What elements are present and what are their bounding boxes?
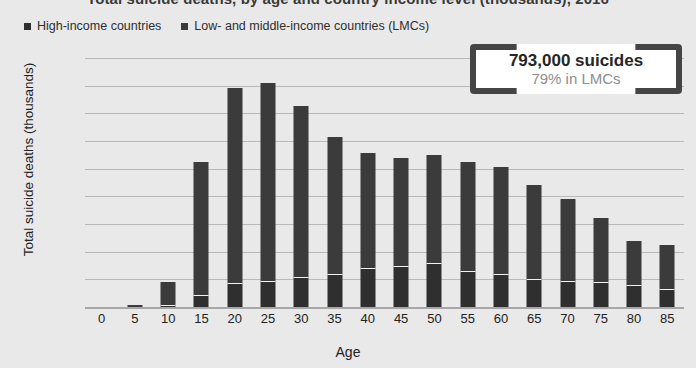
bar-slot[interactable] (584, 58, 617, 307)
stacked-bar[interactable] (460, 162, 475, 307)
x-axis-tick-label: 60 (484, 311, 517, 326)
stacked-bar[interactable] (161, 282, 176, 307)
x-axis-tick-label: 25 (251, 311, 284, 326)
stacked-bar[interactable] (593, 218, 608, 307)
y-axis-title: Total suicide deaths (thousands) (21, 40, 36, 280)
bar-segment-high-income (360, 268, 375, 307)
stacked-bar[interactable] (494, 167, 509, 307)
bar-segment-lmc (161, 282, 176, 305)
bar-slot[interactable] (318, 58, 351, 307)
stacked-bar[interactable] (261, 83, 276, 307)
bar-slot[interactable] (251, 58, 284, 307)
annotation-callout: 793,000 suicides 79% in LMCs (470, 44, 682, 94)
bar-slot[interactable] (618, 58, 651, 307)
legend-swatch-icon (24, 23, 31, 30)
bar-segment-high-income (627, 285, 642, 307)
bar-segment-high-income (227, 283, 242, 307)
bar-segment-high-income (494, 274, 509, 307)
bar-slot[interactable] (518, 58, 551, 307)
x-axis-tick-label: 80 (617, 311, 650, 326)
bar-slot[interactable] (651, 58, 684, 307)
chart-canvas: Total suicide deaths, by age and country… (0, 0, 696, 368)
bar-segment-lmc (127, 305, 142, 307)
bar-slot[interactable] (285, 58, 318, 307)
chart-figure: Total suicide deaths, by age and country… (0, 0, 696, 382)
bar-segment-high-income (327, 274, 342, 307)
x-axis-line (85, 307, 684, 309)
x-axis-tick-label: 5 (118, 311, 151, 326)
legend-item-high-income: High-income countries (24, 19, 161, 33)
x-axis-tick-label: 75 (584, 311, 617, 326)
stacked-bar[interactable] (394, 158, 409, 307)
bar-slot[interactable] (351, 58, 384, 307)
x-axis-tick-label: 70 (551, 311, 584, 326)
bar-slot[interactable] (451, 58, 484, 307)
bar-segment-lmc (560, 199, 575, 281)
stacked-bar[interactable] (627, 241, 642, 307)
legend-label: Low- and middle-income countries (LMCs) (194, 19, 429, 33)
x-axis-tick-label: 35 (318, 311, 351, 326)
x-axis-tick-label: 45 (385, 311, 418, 326)
bar-segment-high-income (294, 277, 309, 307)
chart-legend: High-income countries Low- and middle-in… (24, 19, 429, 33)
bar-slot[interactable] (385, 58, 418, 307)
bar-slot[interactable] (418, 58, 451, 307)
stacked-bar[interactable] (194, 162, 209, 307)
bar-slot[interactable] (551, 58, 584, 307)
bar-segment-high-income (427, 263, 442, 307)
x-axis-tick-label: 40 (351, 311, 384, 326)
x-axis-title: Age (0, 344, 696, 360)
x-axis-tick-label: 85 (651, 311, 684, 326)
callout-main-value: 793,000 suicides (509, 51, 643, 71)
bar-segment-lmc (660, 245, 675, 289)
bar-segment-lmc (227, 88, 242, 283)
bar-segment-high-income (194, 295, 209, 307)
bar-segment-lmc (627, 241, 642, 285)
bar-segment-lmc (427, 155, 442, 263)
stacked-bar[interactable] (127, 305, 142, 307)
legend-label: High-income countries (37, 19, 161, 33)
x-axis-tick-label: 15 (185, 311, 218, 326)
bar-segment-lmc (494, 167, 509, 274)
bar-segment-high-income (394, 266, 409, 308)
x-axis-tick-label: 30 (285, 311, 318, 326)
x-axis-tick-label: 10 (152, 311, 185, 326)
bar-segment-high-income (560, 281, 575, 307)
bar-slot[interactable] (118, 58, 151, 307)
bar-slot[interactable] (152, 58, 185, 307)
bar-segment-high-income (527, 279, 542, 307)
legend-swatch-icon (181, 23, 188, 30)
bar-segment-lmc (294, 106, 309, 276)
bar-segment-lmc (327, 137, 342, 274)
stacked-bar[interactable] (427, 155, 442, 307)
bar-segment-lmc (360, 153, 375, 268)
x-axis-tick-label: 55 (451, 311, 484, 326)
stacked-bar[interactable] (294, 106, 309, 307)
bar-segment-lmc (527, 185, 542, 279)
legend-item-lmc: Low- and middle-income countries (LMCs) (181, 19, 429, 33)
bar-segment-high-income (660, 289, 675, 307)
bar-slot[interactable] (484, 58, 517, 307)
stacked-bar[interactable] (527, 185, 542, 307)
x-axis-tick-label: 20 (218, 311, 251, 326)
bar-group (85, 58, 684, 307)
bar-segment-high-income (161, 305, 176, 307)
bar-slot[interactable] (218, 58, 251, 307)
bar-segment-lmc (194, 162, 209, 295)
stacked-bar[interactable] (227, 88, 242, 307)
bar-slot[interactable] (185, 58, 218, 307)
plot-area: 9080706050403020100 05101520253035404550… (85, 58, 684, 307)
x-axis-tick-label: 65 (518, 311, 551, 326)
stacked-bar[interactable] (560, 199, 575, 307)
x-axis-tick-label: 50 (418, 311, 451, 326)
bar-segment-high-income (460, 271, 475, 307)
bar-segment-lmc (460, 162, 475, 271)
stacked-bar[interactable] (360, 153, 375, 307)
bar-segment-lmc (261, 83, 276, 281)
bar-segment-high-income (261, 281, 276, 307)
stacked-bar[interactable] (327, 137, 342, 307)
stacked-bar[interactable] (660, 245, 675, 307)
chart-title: Total suicide deaths, by age and country… (0, 0, 696, 7)
bar-slot[interactable] (85, 58, 118, 307)
bar-segment-lmc (394, 158, 409, 266)
